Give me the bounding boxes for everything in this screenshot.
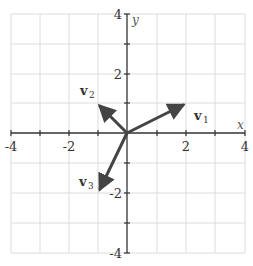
vector-v1: [127, 105, 183, 133]
x-tick-label: 4: [241, 139, 249, 154]
y-tick-label: -4: [109, 246, 122, 261]
svg-text:v: v: [193, 108, 202, 123]
vector-label-v3: v 3: [78, 174, 94, 191]
svg-text:1: 1: [203, 115, 209, 125]
x-tick-label: -2: [63, 139, 76, 154]
vector-diagram: -4 -2 2 4 4 2 -2 -4 x y v 1 v 2 v 3: [0, 0, 253, 266]
svg-text:2: 2: [89, 90, 95, 100]
vector-label-v2: v 2: [79, 83, 95, 100]
svg-text:v: v: [79, 83, 88, 98]
svg-text:v: v: [78, 174, 87, 189]
y-tick-label: -2: [109, 186, 122, 201]
x-tick-label: 2: [182, 139, 190, 154]
vector-v2: [100, 106, 127, 133]
svg-text:3: 3: [88, 181, 94, 191]
y-tick-label: 4: [114, 7, 122, 22]
y-tick-label: 2: [114, 67, 122, 82]
y-axis-label: y: [131, 13, 139, 27]
vectors: [100, 105, 183, 189]
x-axis-label: x: [237, 118, 244, 132]
x-tick-label: -4: [5, 139, 18, 154]
vector-label-v1: v 1: [193, 108, 209, 125]
vector-v3: [100, 133, 127, 189]
